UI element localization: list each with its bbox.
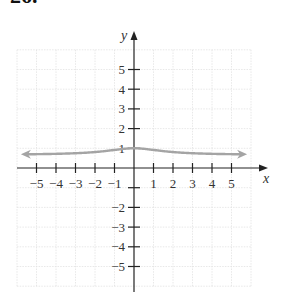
x-tick-label: 2: [170, 176, 177, 191]
x-tick-label: −4: [49, 176, 63, 191]
y-tick-label: −3: [111, 220, 125, 235]
y-axis-arrow-icon: [131, 31, 138, 40]
x-tick-label: 1: [150, 176, 157, 191]
x-tick-label: 3: [189, 176, 196, 191]
y-tick-label: −5: [111, 259, 125, 274]
y-tick-label: 2: [119, 121, 126, 136]
x-ticks: −5−4−3−2−112345: [30, 163, 235, 191]
y-tick-label: 4: [119, 82, 126, 97]
x-tick-label: −5: [30, 176, 44, 191]
x-axis-label: x: [262, 171, 270, 186]
y-tick-label: 3: [119, 101, 126, 116]
axes: x y: [17, 28, 270, 292]
y-tick-label: −4: [111, 239, 125, 254]
y-tick-label: −2: [111, 200, 125, 215]
x-tick-label: −1: [108, 176, 122, 191]
y-axis-label: y: [119, 28, 128, 43]
function-graph: x y −5−4−3−2−112345 54321−2−3−4−5: [0, 0, 281, 305]
x-tick-label: −2: [88, 176, 102, 191]
x-tick-label: −3: [69, 176, 83, 191]
x-tick-label: 4: [209, 176, 216, 191]
x-tick-label: 5: [228, 176, 235, 191]
y-tick-label: 5: [119, 62, 126, 77]
